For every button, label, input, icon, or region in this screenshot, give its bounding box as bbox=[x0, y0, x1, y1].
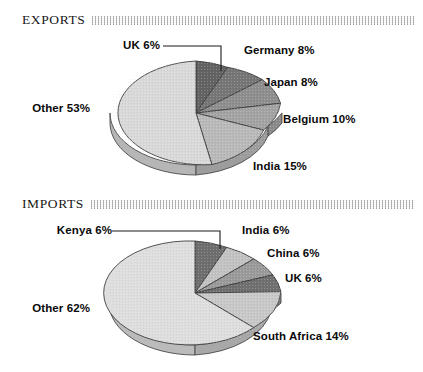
section-heading-imports: IMPORTS bbox=[22, 196, 415, 212]
imports-slice-india bbox=[195, 247, 254, 293]
exports-slice-germany bbox=[196, 67, 262, 113]
section-heading-rule bbox=[92, 16, 415, 25]
imports-slice-other bbox=[104, 241, 254, 345]
imports-label-south-africa: South Africa 14% bbox=[253, 330, 349, 343]
section-heading-imports-text: IMPORTS bbox=[22, 196, 91, 212]
exports-label-germany: Germany 8% bbox=[244, 44, 315, 57]
imports-label-uk: UK 6% bbox=[285, 272, 322, 285]
exports-label-india: India 15% bbox=[253, 160, 307, 173]
imports-leader-line-kenya bbox=[112, 231, 220, 249]
imports-label-india: India 6% bbox=[242, 224, 289, 237]
imports-label-china: China 6% bbox=[267, 247, 320, 260]
imports-slice-china bbox=[195, 259, 273, 293]
imports-pie-side bbox=[109, 293, 281, 355]
section-heading-rule bbox=[91, 200, 415, 209]
exports-slice-other bbox=[118, 61, 212, 165]
exports-pie-texture bbox=[110, 61, 282, 165]
exports-slice-uk bbox=[196, 61, 228, 113]
imports-pie-svg bbox=[0, 0, 423, 372]
exports-label-belgium: Belgium 10% bbox=[283, 113, 356, 126]
exports-pie-svg bbox=[0, 0, 423, 372]
exports-slice-india bbox=[196, 113, 264, 165]
imports-slice-uk bbox=[195, 275, 281, 293]
exports-pie-chart bbox=[0, 0, 423, 372]
exports-slice-belgium bbox=[196, 103, 281, 130]
imports-slice-south-africa bbox=[195, 292, 281, 328]
imports-label-other: Other 62% bbox=[32, 302, 90, 315]
section-heading-exports-text: EXPORTS bbox=[22, 12, 92, 28]
imports-slice-kenya bbox=[195, 241, 227, 293]
exports-label-japan: Japan 8% bbox=[264, 76, 318, 89]
exports-imports-pie-figure: EXPORTS bbox=[0, 0, 423, 372]
section-heading-exports: EXPORTS bbox=[22, 12, 415, 28]
exports-label-other: Other 53% bbox=[32, 102, 90, 115]
exports-label-uk: UK 6% bbox=[123, 39, 160, 52]
imports-pie-chart bbox=[0, 0, 423, 372]
exports-pie-slices bbox=[118, 61, 281, 165]
imports-label-kenya: Kenya 6% bbox=[57, 224, 112, 237]
exports-leader-line-uk bbox=[163, 46, 221, 71]
